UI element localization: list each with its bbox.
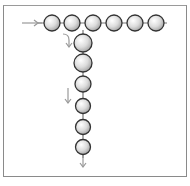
entry-arrow-icon bbox=[22, 20, 42, 26]
branch-curved-arrow-icon bbox=[63, 34, 72, 47]
sphere bbox=[74, 34, 92, 52]
sphere bbox=[75, 76, 91, 92]
sphere bbox=[76, 120, 91, 135]
sphere bbox=[148, 15, 164, 31]
sphere bbox=[64, 15, 80, 31]
sphere bbox=[85, 15, 101, 31]
sphere bbox=[127, 15, 143, 31]
sphere bbox=[44, 15, 60, 31]
sphere bbox=[76, 99, 91, 114]
sphere bbox=[76, 140, 91, 155]
sphere bbox=[74, 54, 92, 72]
exit-down-arrow-icon bbox=[80, 155, 86, 167]
sphere-chain-diagram bbox=[0, 0, 190, 186]
sphere bbox=[106, 15, 122, 31]
mid-down-arrow-icon bbox=[65, 88, 71, 103]
